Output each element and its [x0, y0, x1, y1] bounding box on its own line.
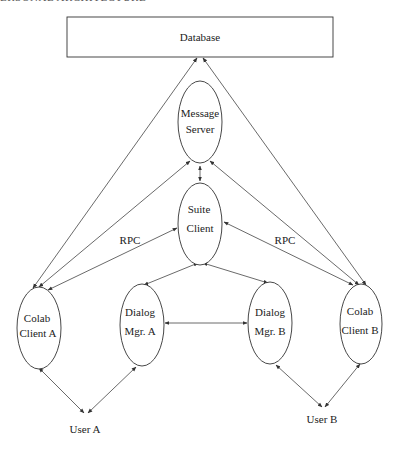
colab-client-b-label-line1: Colab — [347, 305, 374, 317]
message-server-label-line1: Message — [181, 107, 220, 119]
rpc-label-left: RPC — [120, 234, 141, 246]
edge-user-a-colab-a — [39, 368, 84, 413]
message-server-label-line2: Server — [186, 123, 215, 135]
edge-user-a-dialog-a — [88, 367, 136, 413]
edge-colab-a-database — [33, 58, 197, 288]
colab-client-a-label-line2: Client A — [20, 327, 57, 339]
dialog-mgr-a-label-line1: Dialog — [125, 306, 155, 318]
dialog-mgr-a-label-line2: Mgr. A — [124, 325, 155, 337]
user-b-label: User B — [307, 413, 338, 425]
edge-colab-a-message-server — [39, 161, 190, 287]
architecture-diagram: Database Message Server Suite Client Col… — [0, 0, 402, 451]
database-label: Database — [180, 31, 220, 43]
edge-user-b-colab-b — [325, 364, 360, 407]
user-a-label: User A — [70, 423, 101, 435]
node-suite-client: Suite Client — [178, 183, 222, 265]
edge-colab-a-suite-client-rpc — [48, 228, 177, 290]
edge-colab-b-message-server — [210, 161, 359, 285]
node-colab-client-a: Colab Client A — [17, 287, 61, 369]
node-message-server: Message Server — [178, 81, 222, 163]
node-database: Database — [67, 17, 333, 57]
node-dialog-mgr-a: Dialog Mgr. A — [120, 284, 164, 366]
suite-client-label-line2: Client — [187, 222, 214, 234]
colab-client-a-label-line1: Colab — [24, 312, 51, 324]
suite-client-label-line1: Suite — [188, 203, 211, 215]
colab-client-b-label-line2: Client B — [342, 324, 379, 336]
message-server-ellipse — [178, 81, 222, 163]
edge-colab-b-database — [203, 58, 366, 285]
node-colab-client-b: Colab Client B — [340, 284, 382, 364]
dialog-mgr-b-label-line1: Dialog — [255, 306, 285, 318]
edge-user-b-dialog-b — [276, 365, 322, 407]
dialog-mgr-b-ellipse — [248, 282, 292, 364]
node-dialog-mgr-b: Dialog Mgr. B — [248, 282, 292, 364]
dialog-mgr-b-label-line2: Mgr. B — [254, 325, 285, 337]
edge-suite-client-dialog-a — [144, 263, 198, 285]
rpc-label-right: RPC — [275, 234, 296, 246]
edge-suite-client-dialog-b — [203, 263, 268, 283]
